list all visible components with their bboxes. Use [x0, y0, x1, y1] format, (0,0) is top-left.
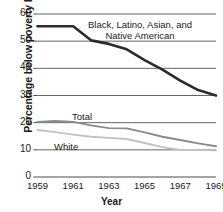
series-label-total: Total — [72, 112, 92, 123]
y-tick-label: 30 — [5, 89, 31, 100]
x-tick-label: 1965 — [128, 180, 162, 191]
x-tick-label: 1969 — [199, 180, 223, 191]
x-tick-label: 1959 — [21, 180, 55, 191]
series-label-minority: Black, Latino, Asian, and Native America… — [70, 20, 210, 41]
series-lines — [38, 26, 217, 150]
poverty-line-chart: Percentage below poverty level Year 0102… — [0, 0, 223, 212]
series-label-white: White — [54, 142, 78, 153]
x-axis-label: Year — [0, 196, 223, 207]
x-tick-label: 1963 — [92, 180, 126, 191]
series-label-minority-line1: Black, Latino, Asian, and — [70, 20, 210, 31]
y-tick-label: 40 — [5, 61, 31, 72]
series-label-minority-line2: Native American — [70, 31, 210, 42]
y-tick-label: 60 — [5, 7, 31, 18]
y-tick-label: 20 — [5, 116, 31, 127]
x-tick-label: 1967 — [163, 180, 197, 191]
y-tick-label: 10 — [5, 143, 31, 154]
x-tick-label: 1961 — [56, 180, 90, 191]
y-tick-label: 50 — [5, 34, 31, 45]
